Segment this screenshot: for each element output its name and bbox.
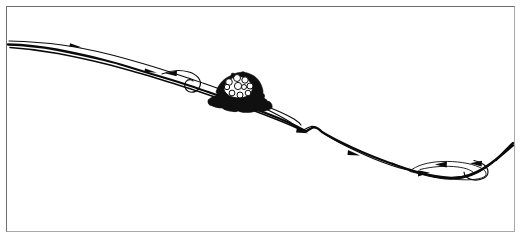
figure-root: Airflow over a sloping hillside with an … <box>0 0 522 252</box>
far-right-slope-rise <box>496 143 513 160</box>
bush <box>208 72 272 113</box>
lower-streamline <box>268 110 412 171</box>
airflow-diagram-canvas <box>0 0 522 252</box>
